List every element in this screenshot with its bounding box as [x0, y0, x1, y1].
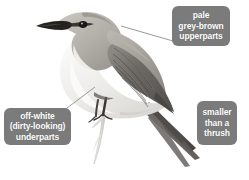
callout-upperparts: pale grey-brown upperparts	[172, 6, 230, 46]
callout-upperparts-line-1: pale	[193, 10, 210, 21]
callout-underparts: off-white (dirty-looking) underparts	[4, 108, 71, 145]
callout-underparts-line-3: underparts	[16, 132, 59, 143]
callout-upperparts-line-2: grey-brown	[178, 21, 223, 32]
leader-line-upperparts	[120, 24, 174, 46]
callout-underparts-line-1: off-white	[20, 111, 55, 122]
callout-size-comparison: smaller than a thrush	[197, 101, 237, 145]
callout-size-line-3: thrush	[204, 128, 230, 139]
callout-size-line-2: than a	[205, 118, 229, 129]
callout-underparts-line-2: (dirty-looking)	[10, 121, 66, 132]
bird-bill	[36, 21, 72, 30]
callout-size-line-1: smaller	[202, 107, 231, 118]
callout-upperparts-line-3: upperparts	[179, 31, 222, 42]
annotated-bird-figure: pale grey-brown upperparts off-white (di…	[0, 0, 249, 180]
